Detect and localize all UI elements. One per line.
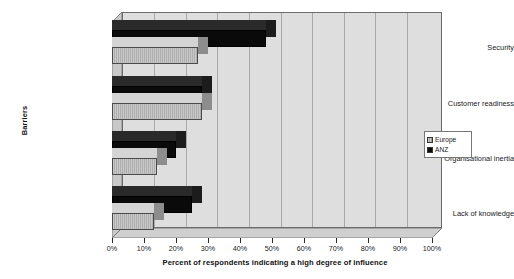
x-tick-0 [112, 238, 113, 243]
x-tick-label-10: 10% [130, 244, 158, 253]
gridline-60 [312, 13, 313, 227]
bar-side-face [202, 76, 212, 93]
x-tick-label-40: 40% [226, 244, 254, 253]
x-tick-label-100: 100% [418, 244, 446, 253]
bar-europe-organisational-inertia [112, 158, 157, 175]
x-tick-label-50: 50% [258, 244, 286, 253]
gridline-80 [375, 13, 376, 227]
x-tick-100 [432, 238, 433, 243]
bar-side-face [202, 93, 212, 110]
bar-top-face [112, 20, 266, 30]
europe-swatch [427, 137, 433, 143]
x-tick-60 [304, 238, 305, 243]
x-tick-label-20: 20% [162, 244, 190, 253]
anz-swatch [427, 147, 433, 153]
bar-side-face [198, 37, 208, 54]
bar-top-face [112, 37, 198, 47]
bar-chart: Barriers Security Customer readiness Org… [0, 0, 514, 279]
x-tick-label-60: 60% [290, 244, 318, 253]
legend-item-europe[interactable]: Europe [427, 135, 468, 144]
bar-europe-customer-readiness [112, 103, 202, 120]
x-tick-90 [400, 238, 401, 243]
bar-front-face [112, 213, 154, 230]
x-tick-label-70: 70% [322, 244, 350, 253]
bar-side-face [154, 203, 164, 220]
bar-front-face [112, 103, 202, 120]
bar-top-face [112, 148, 157, 158]
x-tick-20 [176, 238, 177, 243]
x-tick-40 [240, 238, 241, 243]
bar-europe-security [112, 47, 198, 64]
x-tick-50 [272, 238, 273, 243]
x-tick-label-80: 80% [354, 244, 382, 253]
gridline-70 [344, 13, 345, 227]
x-tick-70 [336, 238, 337, 243]
x-axis-title: Percent of respondents indicating a high… [105, 258, 445, 267]
bar-top-face [112, 76, 202, 86]
bar-front-face [112, 158, 157, 175]
chart-legend: Europe ANZ [424, 131, 472, 158]
x-tick-10 [144, 238, 145, 243]
bar-top-face [112, 186, 192, 196]
bar-europe-lack-of-knowledge [112, 213, 154, 230]
bar-side-face [176, 131, 186, 148]
x-tick-label-90: 90% [386, 244, 414, 253]
gridline-90 [407, 13, 408, 227]
bar-side-face [192, 186, 202, 203]
bar-side-face [266, 20, 276, 37]
x-tick-30 [208, 238, 209, 243]
x-tick-label-30: 30% [194, 244, 222, 253]
bar-top-face [112, 93, 202, 103]
legend-label-europe: Europe [435, 135, 456, 144]
bar-top-face [112, 131, 176, 141]
x-tick-80 [368, 238, 369, 243]
bar-top-face [112, 203, 154, 213]
x-tick-label-0: 0% [98, 244, 126, 253]
plot-floor [112, 228, 442, 238]
gridline-50 [281, 13, 282, 227]
legend-item-anz[interactable]: ANZ [427, 145, 468, 154]
legend-label-anz: ANZ [435, 145, 448, 154]
bar-front-face [112, 47, 198, 64]
bar-side-face [157, 148, 167, 165]
